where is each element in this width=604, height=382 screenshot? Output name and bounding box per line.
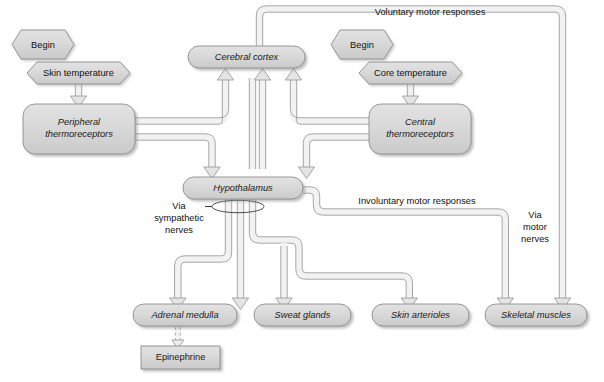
edge-peripheral-to-cortex	[135, 69, 234, 125]
core-temperature-label: Core temperature	[374, 68, 447, 78]
central-thermoreceptors-label-line2: thermoreceptors	[386, 129, 454, 139]
edge-hypothalamus-branch-to-sweat-left	[276, 243, 292, 310]
central-thermoreceptors-label-line1: Central	[405, 117, 436, 127]
node-begin-left: Begin	[12, 30, 74, 59]
sweat-glands-label: Sweat glands	[275, 310, 331, 320]
edge-hypothalamus-to-sweat-glands	[232, 199, 248, 310]
via-sympathetic-nerves-line2: sympathetic	[154, 213, 204, 223]
edge-adrenal-to-epinephrine	[172, 327, 184, 349]
node-epinephrine: Epinephrine	[141, 346, 220, 369]
via-motor-nerves-label: Via motor nerves	[521, 210, 549, 244]
via-sympathetic-nerves-label: Via sympathetic nerves	[154, 201, 204, 235]
edge-peripheral-to-hypothalamus	[135, 134, 220, 179]
skin-arterioles-label: Skin arterioles	[391, 310, 450, 320]
connector-layer	[70, 6, 570, 349]
node-hypothalamus: Hypothalamus	[183, 177, 303, 199]
epinephrine-label: Epinephrine	[156, 352, 206, 362]
peripheral-thermoreceptors-label-line1: Peripheral	[58, 117, 101, 127]
node-begin-right: Begin	[331, 30, 393, 59]
edge-central-to-hypothalamus	[298, 134, 369, 179]
voluntary-motor-responses-label: Voluntary motor responses	[375, 7, 486, 17]
node-cerebral-cortex: Cerebral cortex	[188, 46, 305, 68]
peripheral-thermoreceptors-label-line2: thermoreceptors	[45, 129, 113, 139]
node-skeletal-muscles: Skeletal muscles	[485, 304, 587, 326]
involuntary-motor-responses-label: Involuntary motor responses	[358, 196, 476, 206]
skin-temperature-label: Skin temperature	[43, 68, 114, 78]
node-adrenal-medulla: Adrenal medulla	[133, 304, 237, 326]
edge-hypothalamus-cortex-center-up	[254, 69, 270, 170]
via-motor-nerves-line1: Via	[528, 210, 542, 220]
diagram-canvas: Begin Begin Skin temperature Core temper…	[0, 0, 604, 382]
node-sweat-glands: Sweat glands	[254, 304, 351, 326]
skeletal-muscles-label: Skeletal muscles	[501, 310, 571, 320]
node-central-thermoreceptors: Central thermoreceptors	[369, 104, 471, 154]
via-motor-nerves-line2: motor	[523, 222, 547, 232]
hypothalamus-label: Hypothalamus	[213, 183, 273, 193]
via-sympathetic-nerves-line1: Via	[172, 201, 186, 211]
via-motor-nerves-line3: nerves	[521, 234, 549, 244]
node-peripheral-thermoreceptors: Peripheral thermoreceptors	[23, 104, 135, 154]
cerebral-cortex-label: Cerebral cortex	[215, 52, 279, 62]
begin-right-label: Begin	[350, 40, 374, 50]
adrenal-medulla-label: Adrenal medulla	[150, 310, 218, 320]
node-skin-temperature: Skin temperature	[27, 62, 130, 84]
thermoregulation-flowchart: Begin Begin Skin temperature Core temper…	[0, 0, 604, 382]
node-core-temperature: Core temperature	[359, 62, 462, 84]
begin-left-label: Begin	[31, 40, 55, 50]
edge-central-to-cortex	[285, 69, 369, 125]
edge-cortex-hypothalamus-center-down	[249, 78, 255, 169]
node-skin-arterioles: Skin arterioles	[372, 304, 469, 326]
via-sympathetic-nerves-line3: nerves	[165, 225, 193, 235]
